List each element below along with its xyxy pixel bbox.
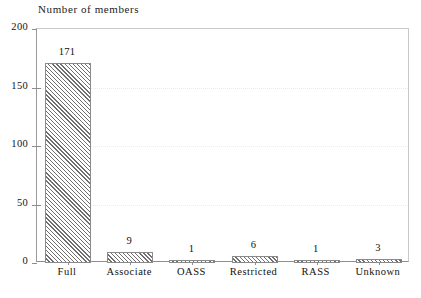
bar-value-label: 3 (347, 242, 409, 253)
x-axis-label: OASS (160, 266, 222, 277)
bar (169, 260, 215, 263)
bar-value-label: 9 (98, 235, 160, 246)
y-axis-tick-inner (37, 205, 41, 206)
x-axis-label: Restricted (223, 266, 285, 277)
y-axis-tick (32, 29, 37, 30)
x-axis-label: Associate (98, 266, 160, 277)
bar (356, 259, 402, 263)
y-axis-label: 100 (0, 138, 28, 149)
y-axis-tick-inner (37, 146, 41, 147)
y-axis-label: 150 (0, 80, 28, 91)
x-axis-label: Unknown (347, 266, 409, 277)
bar (232, 256, 278, 263)
y-axis-label: 50 (0, 197, 28, 208)
x-axis-label: RASS (285, 266, 347, 277)
bar (107, 252, 153, 263)
y-axis-label: 0 (0, 255, 28, 266)
gridline (37, 205, 408, 206)
bar-value-label: 1 (285, 243, 347, 254)
bar-value-label: 6 (223, 239, 285, 250)
bar (45, 63, 91, 263)
x-axis-label: Full (36, 266, 98, 277)
gridline (37, 146, 408, 147)
bar-chart: Number of members 050100150200 FullAssoc… (0, 0, 421, 298)
bar (294, 260, 340, 263)
y-axis-tick-inner (37, 88, 41, 89)
y-axis-tick (32, 263, 37, 264)
bar-value-label: 171 (36, 46, 98, 57)
bar-value-label: 1 (160, 243, 222, 254)
y-axis-label: 200 (0, 21, 28, 32)
chart-title: Number of members (38, 3, 139, 15)
plot-area (36, 28, 409, 262)
gridline (37, 88, 408, 89)
